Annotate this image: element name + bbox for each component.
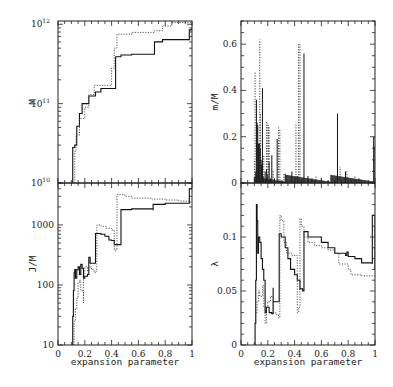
y-tick-label: 0: [231, 340, 237, 350]
y-tick-label: 1000: [31, 220, 54, 230]
y-tick-label: 0.4: [223, 85, 238, 95]
y-tick-label: 10: [43, 340, 55, 350]
y-tick-label: 0: [231, 178, 237, 188]
panel-frame: [241, 183, 375, 345]
y-tick-label: 0.05: [217, 286, 237, 296]
x-tick-label: 1: [372, 349, 378, 359]
x-tick-label: 0: [238, 349, 244, 359]
ylabel-J-over-M: J/M: [27, 255, 38, 272]
plot-area: [71, 188, 192, 345]
panel-mass: 101010111012: [31, 17, 192, 188]
series-solid: [254, 205, 375, 345]
ylabel-M: M: [27, 99, 38, 105]
panel-angular-momentum: 00.20.40.60.81101001000: [31, 183, 195, 359]
y-tick-label: 1012: [31, 17, 50, 29]
plot-area: [71, 23, 192, 183]
y-tick-label: 1010: [31, 176, 50, 188]
panel-frame: [58, 21, 192, 183]
y-tick-label: 0.6: [223, 39, 238, 49]
y-tick-label: 0.1: [223, 232, 237, 242]
x-tick-label: 1: [189, 349, 195, 359]
plot-area: [254, 205, 375, 345]
series-dotted: [75, 23, 192, 183]
chart-canvas: 101010111012 00.20.40.60.81101001000 00.…: [0, 0, 393, 387]
plot-area: [254, 40, 375, 183]
xlabel-right: expansion parameter: [254, 356, 363, 367]
panel-merger-ratio: 00.20.40.6: [223, 21, 375, 188]
series-solid: [71, 28, 192, 183]
series-dotted: [254, 215, 375, 323]
series-solid: [71, 188, 192, 345]
ylabel-lambda: λ: [209, 261, 220, 267]
y-tick-label: 100: [37, 280, 54, 290]
x-tick-label: 0: [55, 349, 61, 359]
panel-frame: [58, 183, 192, 345]
panel-spin-parameter: 00.20.40.60.8100.050.1: [217, 183, 378, 359]
y-tick-label: 0.2: [223, 132, 237, 142]
ylabel-m-over-M: m/M: [209, 93, 220, 110]
xlabel-left: expansion parameter: [71, 356, 180, 367]
panel-frame: [241, 21, 375, 183]
series-dotted: [71, 195, 192, 345]
